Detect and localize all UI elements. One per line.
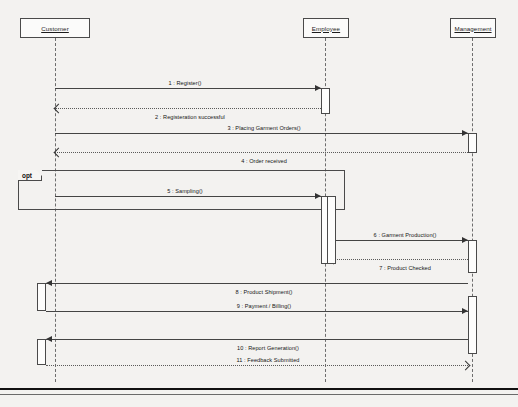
sequence-diagram-canvas: opt 1 : Register()2 : Registeration succ… — [0, 0, 518, 407]
page-rule-0 — [0, 388, 518, 390]
page-rules-layer — [0, 0, 518, 407]
page-rule-1 — [0, 394, 518, 395]
